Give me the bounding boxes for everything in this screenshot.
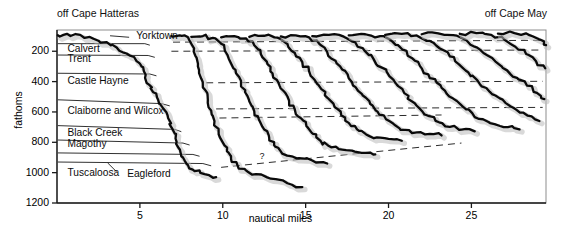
unit-label-black-creek: Black Creek <box>67 127 122 138</box>
stratigraphic-unit-label-layer: YorktownCalvertTrentCastle HayneClaiborn… <box>0 0 561 235</box>
unit-label-tuscaloosa: Tuscaloosa <box>67 167 119 178</box>
uncertain-horizon-question-mark: ? <box>260 151 265 161</box>
unit-label-trent: Trent <box>67 53 90 64</box>
unit-label-magothy: Magothy <box>67 138 106 149</box>
unit-label-yorktown: Yorktown <box>136 30 178 41</box>
unit-label-claiborne-and-wilcox: Claiborne and Wilcox <box>67 105 163 116</box>
unit-label-castle-hayne: Castle Hayne <box>67 75 128 86</box>
seismic-stratigraphic-profile-figure: off Cape Hatteras off Cape May fathoms n… <box>0 0 561 235</box>
unit-label-eagleford: Eagleford <box>127 168 171 179</box>
